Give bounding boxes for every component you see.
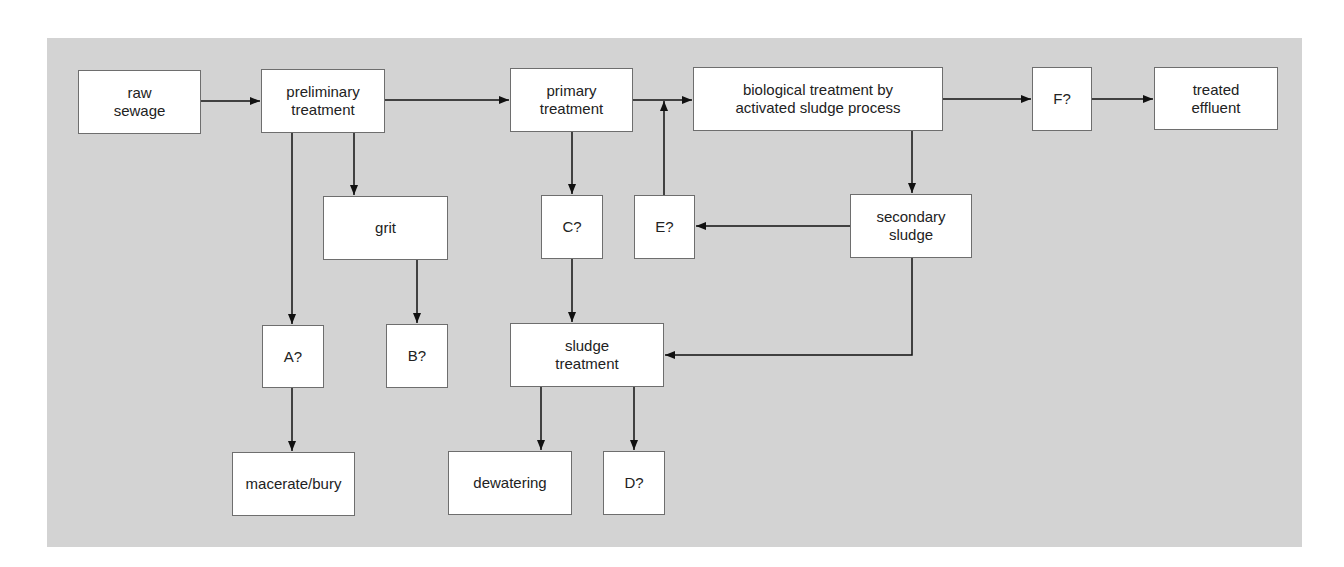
node-a: A? — [262, 325, 324, 388]
node-c: C? — [541, 195, 603, 259]
node-grit: grit — [323, 196, 448, 260]
node-macerate-bury: macerate/bury — [232, 452, 355, 516]
node-sludge-treatment: sludge treatment — [510, 323, 664, 387]
node-dewatering: dewatering — [448, 451, 572, 515]
node-preliminary-treatment: preliminary treatment — [261, 69, 385, 133]
node-treated-effluent: treated effluent — [1154, 67, 1278, 130]
node-raw-sewage: raw sewage — [78, 70, 201, 134]
node-e: E? — [634, 195, 695, 259]
node-f: F? — [1032, 67, 1092, 131]
node-biological-treatment: biological treatment by activated sludge… — [693, 67, 943, 131]
node-d: D? — [603, 451, 665, 515]
node-b: B? — [386, 324, 448, 388]
connector-lines — [0, 0, 1344, 567]
node-secondary-sludge: secondary sludge — [850, 194, 972, 258]
node-primary-treatment: primary treatment — [510, 68, 633, 132]
